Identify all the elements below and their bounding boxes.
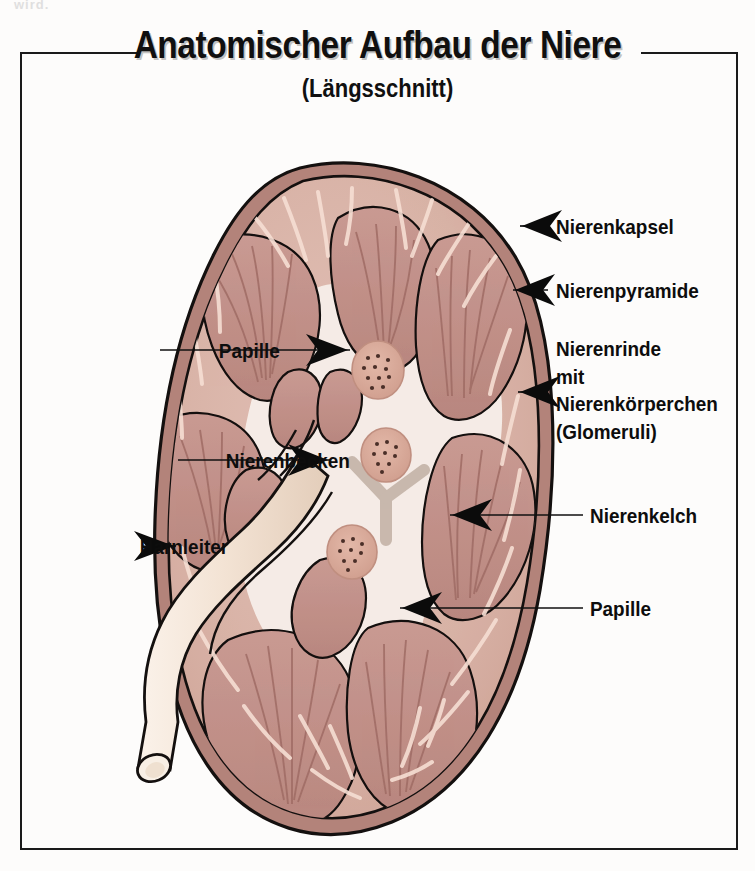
pyramid-bottom-middle bbox=[347, 621, 477, 815]
figure-page: wird. Anatomischer Aufbau der Niere (Län… bbox=[0, 0, 755, 871]
pyramid-lower-left bbox=[202, 630, 360, 827]
papilla-lower bbox=[327, 525, 377, 579]
label-nierenpyramide: Nierenpyramide bbox=[556, 277, 699, 305]
label-papille-bottom: Papille bbox=[590, 595, 651, 623]
label-nierenbecken: Nierenbecken bbox=[226, 447, 350, 475]
label-harnleiter: Harnleiter bbox=[140, 533, 228, 561]
papilla-upper bbox=[352, 341, 404, 399]
label-nierenkelch: Nierenkelch bbox=[590, 502, 697, 530]
label-nierenkapsel: Nierenkapsel bbox=[556, 213, 674, 241]
label-nierenrinde-glomeruli: Nierenrinde mit Nierenkörperchen (Glomer… bbox=[556, 335, 718, 446]
label-papille-top: Papille bbox=[219, 337, 280, 365]
papilla-middle bbox=[361, 428, 411, 482]
